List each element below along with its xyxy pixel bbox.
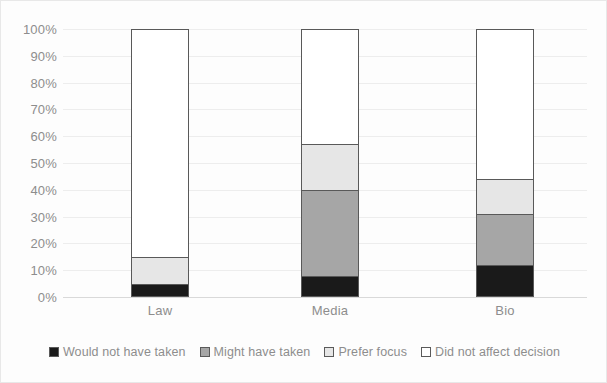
bar-segment[interactable]	[476, 179, 534, 214]
legend-label: Prefer focus	[338, 345, 407, 359]
legend-item[interactable]: Prefer focus	[324, 345, 407, 359]
legend-swatch-icon	[49, 347, 59, 357]
x-axis-tick-label: Media	[270, 303, 390, 318]
bar-segment[interactable]	[131, 257, 189, 284]
y-axis-tick-label: 80%	[5, 75, 57, 90]
bar-group	[301, 29, 359, 297]
x-axis-tick-label: Law	[100, 303, 220, 318]
stacked-bar[interactable]	[476, 29, 534, 297]
y-axis-tick-label: 60%	[5, 129, 57, 144]
y-axis-tick-label: 70%	[5, 102, 57, 117]
y-axis-tick-label: 40%	[5, 182, 57, 197]
y-axis-tick-label: 20%	[5, 236, 57, 251]
bar-segment[interactable]	[301, 190, 359, 276]
gridline	[63, 297, 587, 298]
legend-label: Might have taken	[214, 345, 311, 359]
stacked-bar[interactable]	[131, 29, 189, 297]
legend-item[interactable]: Did not affect decision	[421, 345, 560, 359]
bar-segment[interactable]	[476, 29, 534, 179]
y-axis-tick-label: 0%	[5, 290, 57, 305]
legend-swatch-icon	[421, 347, 431, 357]
plot-area	[63, 29, 587, 297]
bar-segment[interactable]	[476, 214, 534, 265]
legend-item[interactable]: Would not have taken	[49, 345, 186, 359]
bar-segment[interactable]	[131, 29, 189, 257]
legend-item[interactable]: Might have taken	[200, 345, 311, 359]
x-axis-tick-label: Bio	[445, 303, 565, 318]
y-axis-tick-label: 10%	[5, 263, 57, 278]
bar-group	[131, 29, 189, 297]
bar-segment[interactable]	[301, 29, 359, 144]
bar-segment[interactable]	[131, 284, 189, 297]
y-axis-tick-label: 100%	[5, 22, 57, 37]
chart-legend: Would not have takenMight have takenPref…	[1, 345, 607, 359]
stacked-bar[interactable]	[301, 29, 359, 297]
legend-swatch-icon	[200, 347, 210, 357]
y-axis-tick-label: 90%	[5, 48, 57, 63]
bar-segment[interactable]	[301, 276, 359, 297]
bar-segment[interactable]	[476, 265, 534, 297]
chart-container: 0%10%20%30%40%50%60%70%80%90%100% LawMed…	[0, 0, 607, 383]
legend-label: Did not affect decision	[435, 345, 560, 359]
bar-segment[interactable]	[301, 144, 359, 190]
legend-swatch-icon	[324, 347, 334, 357]
bar-group	[476, 29, 534, 297]
y-axis: 0%10%20%30%40%50%60%70%80%90%100%	[1, 29, 57, 297]
y-axis-tick-label: 30%	[5, 209, 57, 224]
legend-label: Would not have taken	[63, 345, 186, 359]
y-axis-tick-label: 50%	[5, 156, 57, 171]
